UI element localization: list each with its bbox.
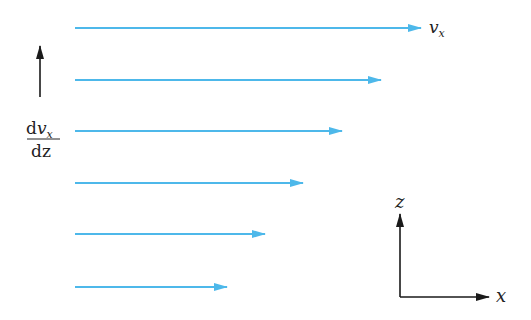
velocity-arrows <box>75 28 421 287</box>
velocity-gradient-label: dvx dz <box>26 118 60 161</box>
gradient-num-v: v <box>37 118 47 138</box>
gradient-num-d: d <box>26 118 37 138</box>
gradient-den: dz <box>31 141 51 161</box>
velocity-label: vx <box>429 17 446 40</box>
z-axis-label: z <box>394 191 405 212</box>
x-axis-label: x <box>496 285 506 306</box>
coordinate-axes: z x <box>394 191 506 306</box>
svg-text:dz: dz <box>31 141 51 161</box>
shear-flow-diagram: dvx dz vx z x <box>0 0 531 320</box>
svg-text:dvx: dvx <box>26 118 54 141</box>
